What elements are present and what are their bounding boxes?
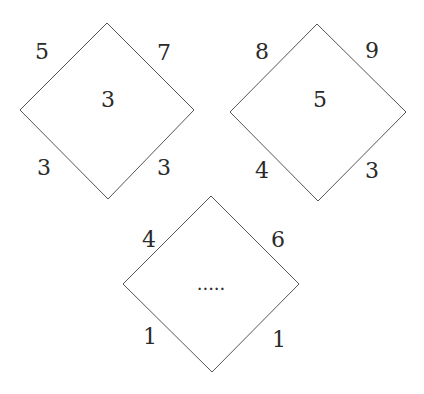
diamond-2-bottom-right-number: 3 — [365, 160, 379, 182]
diamond-3-top-right-number: 6 — [271, 229, 285, 251]
diamond-2-bottom-left-number: 4 — [255, 160, 269, 182]
diamond-1-top-right-number: 7 — [157, 42, 171, 64]
diamond-1-center-number: 3 — [101, 89, 115, 111]
diamond-3-bottom-left-number: 1 — [143, 326, 157, 348]
diamond-2-center-number: 5 — [313, 89, 327, 111]
diamond-1-top-left-number: 5 — [35, 41, 49, 63]
diamond-1-bottom-right-number: 3 — [157, 157, 171, 179]
diamond-2-top-right-number: 9 — [365, 40, 379, 62]
diamond-shapes — [0, 0, 424, 394]
diamond-3-top-left-number: 4 — [142, 229, 156, 251]
diamond-3-bottom-right-number: 1 — [272, 329, 286, 351]
diamond-2-top-left-number: 8 — [255, 41, 269, 63]
diamond-1-bottom-left-number: 3 — [37, 157, 51, 179]
diamond-3-center-unknown: ..... — [197, 275, 226, 293]
number-pattern-puzzle: 5 7 3 3 3 8 9 5 4 3 4 6 ..... 1 1 — [0, 0, 424, 394]
